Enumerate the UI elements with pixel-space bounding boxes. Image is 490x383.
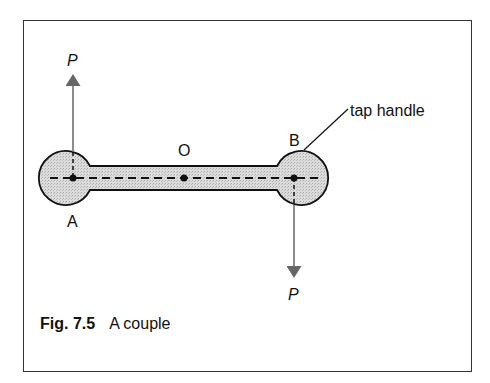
point-a-label: A [67,213,78,230]
point-b-label: B [289,132,300,149]
point-b-dot [291,175,298,182]
figure-number: Fig. 7.5 [40,315,95,332]
force-label-bottom: P [288,286,299,303]
force-label-top: P [67,52,78,69]
point-a-dot [70,175,77,182]
figure-caption: Fig. 7.5A couple [40,315,171,333]
callout-label: tap handle [350,102,425,119]
callout-leader [304,109,348,150]
point-o-label: O [178,142,190,159]
figure-title: A couple [109,315,170,332]
point-o-dot [181,175,188,182]
